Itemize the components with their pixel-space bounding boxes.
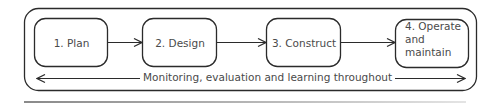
stage-label-design: 2. Design — [143, 19, 217, 67]
stage-label-plan: 1. Plan — [35, 19, 108, 67]
stage-label-operate-line2: and maintain — [405, 33, 469, 59]
stage-label-construct: 3. Construct — [267, 19, 341, 67]
loop-label: Monitoring, evaluation and learning thro… — [140, 71, 395, 83]
stage-label-operate-line1: 4. Operate — [405, 20, 461, 33]
stage-label-operate: 4. Operate and maintain — [396, 20, 469, 68]
bottom-rule — [24, 101, 466, 103]
